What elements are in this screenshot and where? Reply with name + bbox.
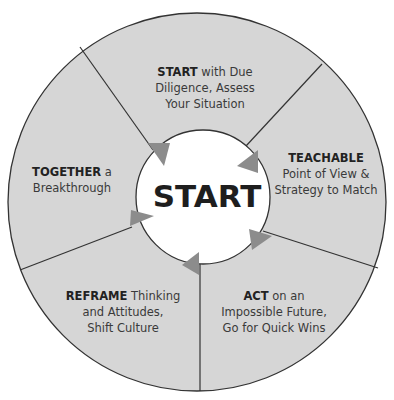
- segment-act-bold: ACT: [243, 289, 268, 303]
- segment-act-line-2: Impossible Future,: [221, 305, 327, 319]
- svg-text:TOGETHER a: TOGETHER a: [32, 165, 112, 179]
- segment-teachable-line-3: Strategy to Match: [274, 183, 377, 197]
- svg-text:START with Due: START with Due: [157, 65, 252, 79]
- segment-reframe-line-1: Thinking: [127, 289, 180, 303]
- segment-reframe-bold: REFRAME: [66, 289, 128, 303]
- center-label: START: [153, 178, 262, 214]
- segment-reframe-line-3: Shift Culture: [87, 321, 159, 335]
- segment-teachable-bold: TEACHABLE: [288, 151, 364, 165]
- segment-start-line-1: with Due: [198, 65, 253, 79]
- segment-act-line-3: Go for Quick Wins: [223, 321, 326, 335]
- segment-start-line-3: Your Situation: [164, 97, 245, 111]
- svg-text:ACT on an: ACT on an: [243, 289, 304, 303]
- segment-act-line-1: on an: [269, 289, 305, 303]
- start-cycle-diagram: START START with Due Diligence, Assess Y…: [0, 0, 394, 400]
- segment-reframe-line-2: and Attitudes,: [83, 305, 164, 319]
- segment-together-bold: TOGETHER: [32, 165, 101, 179]
- segment-teachable-line-2: Point of View &: [283, 167, 370, 181]
- segment-start-line-2: Diligence, Assess: [155, 81, 255, 95]
- segment-start-bold: START: [157, 65, 197, 79]
- segment-together-line-2: Breakthrough: [33, 181, 111, 195]
- segment-start: START with Due Diligence, Assess Your Si…: [155, 65, 255, 111]
- segment-teachable: TEACHABLE Point of View & Strategy to Ma…: [274, 151, 377, 197]
- svg-text:REFRAME Thinking: REFRAME Thinking: [66, 289, 181, 303]
- segment-together-line-1: a: [101, 165, 112, 179]
